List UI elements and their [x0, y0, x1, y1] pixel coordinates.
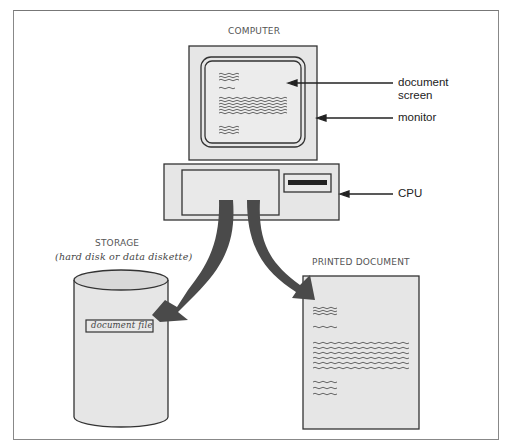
monitor-label: monitor	[398, 111, 436, 124]
printed-document-icon	[303, 276, 419, 429]
cpu-label: CPU	[398, 187, 422, 200]
storage-subtitle: (hard disk or data diskette)	[55, 251, 192, 262]
storage-cylinder-icon	[74, 270, 168, 427]
document-file-label: document file	[91, 320, 153, 330]
document-screen-label-line1: document	[398, 76, 449, 89]
document-screen-label: document screen	[398, 76, 449, 102]
printed-document-title: PRINTED DOCUMENT	[312, 257, 410, 267]
monitor-icon	[189, 46, 317, 160]
computer-title: COMPUTER	[228, 26, 280, 36]
diagram-canvas	[0, 0, 512, 445]
storage-title: STORAGE	[95, 238, 139, 248]
document-screen-label-line2: screen	[398, 89, 449, 102]
